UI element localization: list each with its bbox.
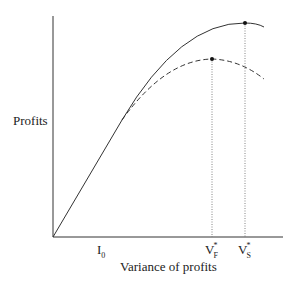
tick-i0-sub: 0 <box>101 251 105 260</box>
solid-curve <box>53 23 264 237</box>
vs-peak-marker <box>243 21 247 25</box>
x-axis-label: Variance of profits <box>120 260 217 273</box>
y-axis-label: Profits <box>13 114 48 127</box>
vf-peak-marker <box>210 57 214 61</box>
dashed-curve <box>122 59 264 120</box>
tick-vs: V*S <box>238 243 247 256</box>
tick-vs-sub: S <box>246 252 250 260</box>
tick-vs-sup: * <box>246 242 250 250</box>
tick-vf: V*F <box>205 243 214 256</box>
tick-vf-sup: * <box>213 242 217 250</box>
tick-i0: I0 <box>97 243 105 260</box>
